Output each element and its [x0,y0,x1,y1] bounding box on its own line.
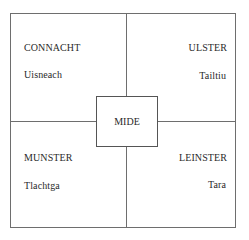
center-province-box: MIDE [96,96,158,147]
province-label-top-left: CONNACHT [24,43,80,53]
site-label-top-left: Uisneach [24,70,62,80]
center-province-label: MIDE [114,117,140,127]
province-label-top-right: ULSTER [189,43,227,53]
site-label-bottom-right: Tara [208,180,226,190]
province-label-bottom-left: MUNSTER [24,153,72,163]
site-label-top-right: Tailtiu [199,71,226,81]
site-label-bottom-left: Tlachtga [24,181,60,191]
province-label-bottom-right: LEINSTER [179,153,227,163]
